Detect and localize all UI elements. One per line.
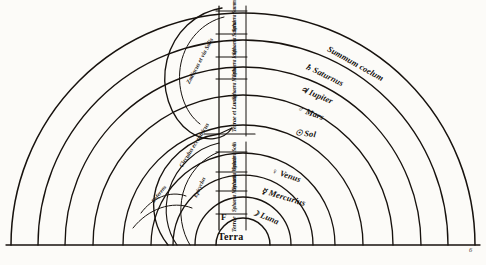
diagram-linework <box>0 0 486 265</box>
column-cell-7: Sphaera Mercurii <box>231 175 237 212</box>
page-number: 6 <box>469 246 472 253</box>
diagram-canvas: Summum coelum ♄ Saturnus ♃ Iupiter ♂ Mar… <box>0 0 486 265</box>
label-sol-text: Sol <box>304 128 317 139</box>
sol-glyph-icon: ☉ <box>295 128 303 138</box>
center-mark: F <box>221 212 227 222</box>
oblique-circle-zodiacus-inner <box>180 17 224 124</box>
column-cell-8: Terrae <box>231 216 237 232</box>
oblique-circle-deferens <box>141 194 186 213</box>
sphere-arc-coelum <box>11 13 475 245</box>
column-cell-4: Terrae et Lunae <box>231 94 237 132</box>
oblique-circle-epicyclus <box>181 152 219 245</box>
oblique-circle-zodiacus <box>165 8 232 139</box>
sphere-arc-sol <box>123 125 363 245</box>
center-label-terra: Terra <box>218 231 244 242</box>
